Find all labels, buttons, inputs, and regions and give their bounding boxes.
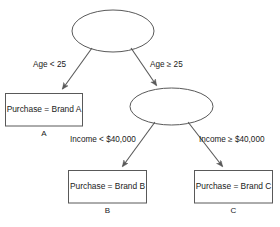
- decision-tree-diagram: Age < 25 Age ≥ 25 Income < $40,000 Incom…: [0, 0, 280, 227]
- node-income-ellipse[interactable]: [130, 88, 213, 125]
- node-root-ellipse[interactable]: [72, 10, 154, 52]
- node-leaf-a-label: Purchase = Brand A: [5, 105, 83, 113]
- edge-label-age-ge-25: Age ≥ 25: [150, 61, 183, 69]
- edge-label-age-less-than-25: Age < 25: [33, 61, 66, 69]
- edge-income-to-leaf-b: [123, 122, 156, 167]
- edge-root-to-leaf-a: [63, 48, 93, 89]
- node-leaf-c-label: Purchase = Brand C: [194, 182, 273, 190]
- node-leaf-b-label: Purchase = Brand B: [68, 182, 147, 190]
- node-tag-c: C: [194, 207, 273, 215]
- edge-income-to-leaf-c: [188, 122, 223, 167]
- edge-label-income-ge-40000: Income ≥ $40,000: [199, 136, 265, 144]
- node-tag-a: A: [5, 130, 83, 138]
- node-tag-b: B: [68, 207, 147, 215]
